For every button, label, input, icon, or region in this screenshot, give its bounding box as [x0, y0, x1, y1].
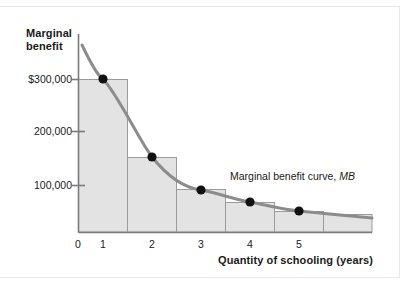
plot-area	[0, 0, 401, 286]
marginal-benefit-chart-figure: Marginal benefit Quantity of schooling (…	[0, 0, 401, 286]
bars-group	[79, 80, 373, 233]
data-point-year-2	[147, 152, 156, 161]
data-point-year-1	[98, 74, 107, 83]
data-point-year-3	[196, 185, 205, 194]
data-point-year-4	[245, 197, 254, 206]
data-point-year-5	[294, 206, 303, 215]
bar-year-3	[177, 190, 226, 233]
bar-year-2	[128, 158, 177, 233]
